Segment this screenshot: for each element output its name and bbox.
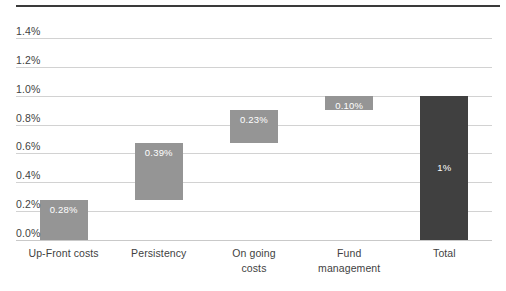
bar-value-label: 0.23% <box>240 110 268 125</box>
gridline <box>16 38 492 39</box>
x-axis-tick-label-line: Total <box>397 246 492 261</box>
bar-on-going-costs: 0.23% <box>230 110 278 143</box>
bar-up-front-costs: 0.28% <box>40 200 88 240</box>
y-axis-tick-label: 1.2% <box>16 54 40 66</box>
bar-value-label: 0.39% <box>145 143 173 158</box>
bar-persistency: 0.39% <box>135 143 183 199</box>
x-axis-tick-label-line: costs <box>206 261 301 276</box>
x-axis-tick-label-line: management <box>302 261 397 276</box>
gridline <box>16 67 492 68</box>
x-axis-tick-label-line: Persistency <box>111 246 206 261</box>
bar-value-label: 0.10% <box>335 96 363 111</box>
x-axis-line <box>16 240 492 241</box>
x-axis-tick-label-line: Fund <box>302 246 397 261</box>
y-axis-tick-label: 1.0% <box>16 83 40 95</box>
x-axis-tick-label-line: On going <box>206 246 301 261</box>
y-axis-tick-label: 1.4% <box>16 25 40 37</box>
bar-value-label: 0.28% <box>50 200 78 215</box>
x-axis-tick-label-line: Up-Front costs <box>16 246 111 261</box>
plot-area: 0.28%0.39%0.23%0.10%1% <box>16 38 492 240</box>
x-axis-tick-label: Up-Front costs <box>16 246 111 261</box>
y-axis-tick-label: 0.2% <box>16 198 40 210</box>
y-axis-tick-label: 0.6% <box>16 140 40 152</box>
x-axis-tick-label: On goingcosts <box>206 246 301 276</box>
x-axis-tick-label: Fundmanagement <box>302 246 397 276</box>
waterfall-chart: 0.28%0.39%0.23%0.10%1% Up-Front costsPer… <box>0 0 506 291</box>
y-axis-tick-label: 0.8% <box>16 112 40 124</box>
x-axis-tick-label: Total <box>397 246 492 261</box>
top-divider-rule <box>16 5 500 7</box>
y-axis-tick-label: 0.4% <box>16 169 40 181</box>
x-axis-labels: Up-Front costsPersistencyOn goingcostsFu… <box>16 246 492 282</box>
y-axis-tick-label: 0.0% <box>16 227 40 239</box>
bar-fund-management: 0.10% <box>325 96 373 110</box>
bar-value-label: 1% <box>437 162 451 173</box>
bar-total: 1% <box>420 96 468 240</box>
x-axis-tick-label: Persistency <box>111 246 206 261</box>
